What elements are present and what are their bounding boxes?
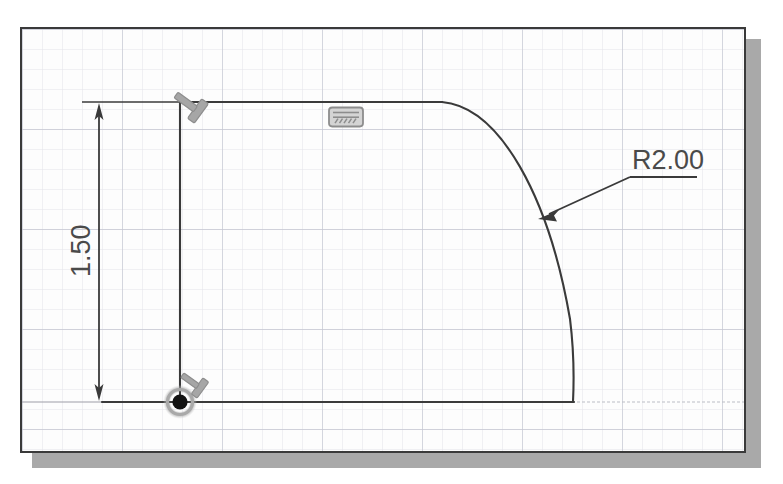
horizontal-constraint-icon[interactable] — [329, 108, 363, 127]
origin-dot — [172, 394, 187, 409]
sketch-origin-point[interactable] — [163, 385, 197, 419]
radius-dimension-text[interactable]: R2.00 — [632, 145, 704, 175]
screenshot-root: 1.50 R2.00 — [0, 0, 783, 484]
sketch-canvas-frame[interactable]: 1.50 R2.00 — [20, 27, 746, 453]
sketch-drawing-area[interactable]: 1.50 R2.00 — [22, 29, 744, 451]
vertical-dimension-text[interactable]: 1.50 — [66, 224, 96, 277]
grid-background — [22, 29, 744, 451]
